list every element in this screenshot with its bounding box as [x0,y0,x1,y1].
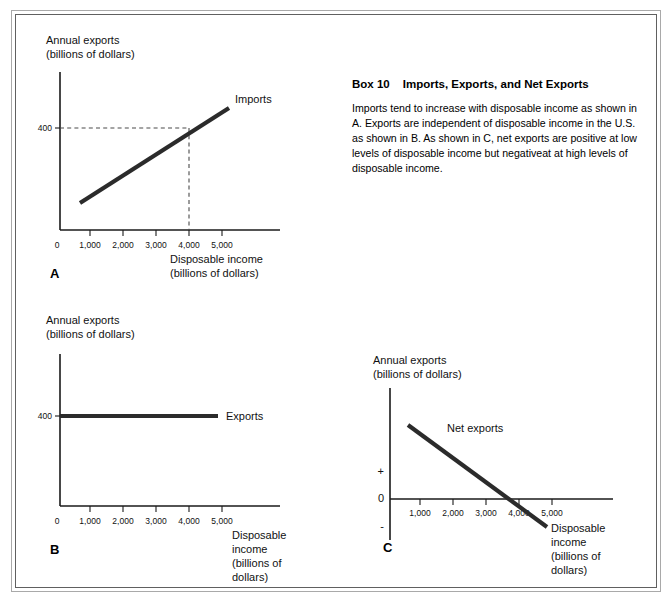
panel-b-chart: Annual exports (billions of dollars) 400… [22,310,322,590]
panel-b-x-axis-label-line4: dollars) [232,571,268,583]
panel-c-chart: Annual exports (billions of dollars) + 0… [355,350,655,595]
caption-title: Box 10Imports, Exports, and Net Exports [352,78,640,92]
panel-b-x-axis-label-line2: income [232,543,267,555]
panel-a-letter: A [50,266,60,281]
panel-a-y-axis-label-line2: (billions of dollars) [46,48,135,60]
panel-c-x-tick-label-3000: 3,000 [475,508,497,518]
panel-a-x-axis-label-line2: (billions of dollars) [170,267,259,279]
panel-b-y-axis-label-line1: Annual exports [46,314,120,326]
panel-b-x-axis-label-line1: Disposable [232,529,286,541]
panel-b-x-tick-label-3000: 3,000 [145,516,167,526]
caption-box: Box 10Imports, Exports, and Net Exports … [352,78,640,176]
panel-b: Annual exports (billions of dollars) 400… [22,310,322,590]
panel-a-x-tick-label-1000: 1,000 [79,240,101,250]
caption-box-title: Imports, Exports, and Net Exports [403,78,589,90]
panel-b-x-tick-label-1000: 1,000 [79,516,101,526]
panel-c-y-label-minus: - [380,520,384,532]
panel-a-x-tick-label-0: 0 [55,240,60,250]
caption-box-number: Box 10 [352,78,390,90]
panel-a-imports-line [80,108,229,203]
figure-root: Annual exports (billions of dollars) 400… [0,0,672,603]
panel-b-x-tick-label-4000: 4,000 [178,516,200,526]
panel-c-series-label-net-exports: Net exports [447,422,504,434]
panel-a-x-tick-label-4000: 4,000 [178,240,200,250]
panel-c-x-tick-label-1000: 1,000 [409,508,431,518]
panel-c-x-axis-label-line2: income [551,536,586,548]
panel-b-x-axis-label-line3: (billions of [232,557,282,569]
panel-b-series-label-exports: Exports [226,410,264,422]
panel-a-chart: Annual exports (billions of dollars) 400… [22,30,322,295]
panel-c-y-label-plus: + [378,465,384,477]
panel-a-y-axis-label-line1: Annual exports [46,34,120,46]
panel-a: Annual exports (billions of dollars) 400… [22,30,322,295]
panel-a-x-axis-label-line1: Disposable income [170,253,263,265]
panel-a-series-label-imports: Imports [235,93,272,105]
panel-a-x-tick-label-5000: 5,000 [211,240,233,250]
panel-c-y-label-zero: 0 [378,492,384,504]
panel-a-x-tick-label-3000: 3,000 [145,240,167,250]
panel-c-y-axis-label-line1: Annual exports [373,354,447,366]
panel-b-y-axis-label-line2: (billions of dollars) [46,328,135,340]
panel-b-y-tick-label-400: 400 [38,411,52,421]
panel-a-x-tick-label-2000: 2,000 [112,240,134,250]
panel-b-letter: B [50,542,59,557]
panel-a-y-tick-label-400: 400 [38,123,52,133]
panel-c-x-axis-label-line1: Disposable [551,522,605,534]
caption-body: Imports tend to increase with disposable… [352,101,640,176]
panel-c-x-axis-label-line4: dollars) [551,564,587,576]
panel-c-x-tick-label-2000: 2,000 [442,508,464,518]
panel-c-x-axis-label-line3: (billions of [551,550,601,562]
panel-c-y-axis-label-line2: (billions of dollars) [373,368,462,380]
panel-c-letter: C [383,540,393,555]
panel-c-x-tick-label-5000: 5,000 [541,508,563,518]
panel-b-x-tick-label-0: 0 [55,516,60,526]
panel-b-x-tick-label-5000: 5,000 [211,516,233,526]
panel-c: Annual exports (billions of dollars) + 0… [355,350,655,595]
panel-b-x-tick-label-2000: 2,000 [112,516,134,526]
